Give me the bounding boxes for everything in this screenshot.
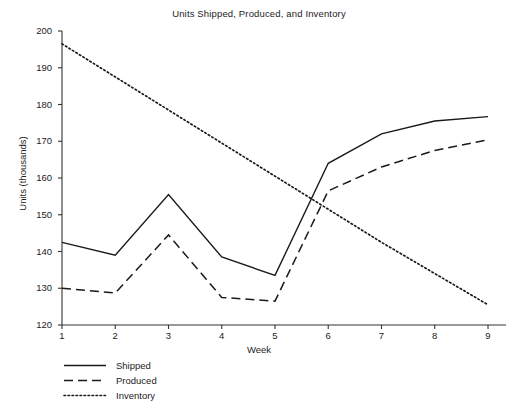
x-axis-tick-label: 4 <box>212 331 232 341</box>
chart-legend: Shipped Produced Inventory <box>62 358 262 403</box>
x-axis-tick-label: 3 <box>159 331 179 341</box>
y-axis-tick-label: 130 <box>18 283 52 293</box>
x-axis-tick-label: 5 <box>265 331 285 341</box>
y-axis-tick-label: 170 <box>18 136 52 146</box>
y-axis-tick-label: 160 <box>18 173 52 183</box>
legend-item-inventory: Inventory <box>62 388 262 403</box>
series-line-inventory <box>62 44 488 305</box>
legend-item-produced: Produced <box>62 373 262 388</box>
legend-swatch-dotted-icon <box>62 388 108 403</box>
legend-swatch-dashed-icon <box>62 373 108 388</box>
legend-swatch-solid-icon <box>62 358 108 373</box>
legend-label-shipped: Shipped <box>116 360 151 371</box>
plot-area <box>0 0 518 418</box>
y-axis-tick-label: 190 <box>18 63 52 73</box>
x-axis-tick-label: 8 <box>425 331 445 341</box>
y-axis-tick-label: 200 <box>18 26 52 36</box>
y-axis-ticks <box>58 31 62 325</box>
x-axis-tick-label: 1 <box>52 331 72 341</box>
y-axis-tick-label: 150 <box>18 210 52 220</box>
data-series-group <box>62 44 488 305</box>
chart-container: Units Shipped, Produced, and Inventory U… <box>0 0 518 418</box>
x-axis-tick-label: 7 <box>372 331 392 341</box>
y-axis-tick-label: 120 <box>18 320 52 330</box>
legend-item-shipped: Shipped <box>62 358 262 373</box>
x-axis-ticks <box>62 325 488 329</box>
y-axis-tick-label: 180 <box>18 100 52 110</box>
x-axis-tick-label: 2 <box>105 331 125 341</box>
series-line-shipped <box>62 117 488 276</box>
series-line-produced <box>62 140 488 301</box>
y-axis-tick-label: 140 <box>18 247 52 257</box>
x-axis-tick-label: 6 <box>318 331 338 341</box>
legend-label-inventory: Inventory <box>116 390 155 401</box>
x-axis-label: Week <box>0 344 518 355</box>
legend-label-produced: Produced <box>116 375 157 386</box>
x-axis-tick-label: 9 <box>478 331 498 341</box>
